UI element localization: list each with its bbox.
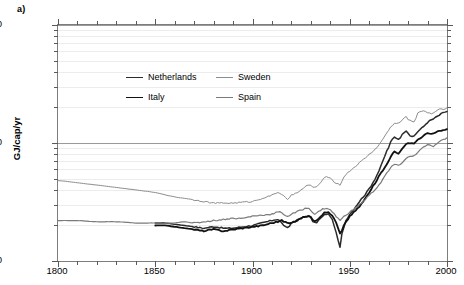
y-axis-tick [447, 72, 451, 73]
y-axis-tick-label: 10 [0, 254, 2, 265]
x-axis-tick [233, 261, 234, 265]
y-axis-tick-label: 1000 [0, 18, 2, 29]
series-line-sweden [58, 108, 447, 204]
y-axis-tick [447, 61, 451, 62]
x-axis-tick [408, 261, 409, 265]
x-axis-tick [330, 261, 331, 265]
x-axis-tick [136, 261, 137, 265]
y-axis-tick [447, 87, 451, 88]
legend-line-icon [216, 97, 233, 98]
y-axis-tick [447, 154, 451, 155]
x-axis-tick [428, 261, 429, 265]
x-axis-tick [77, 261, 78, 265]
y-axis-tick [447, 51, 451, 52]
legend-row: ItalySpain [126, 87, 306, 107]
series-line-spain [58, 138, 447, 223]
x-axis-tick-label: 1950 [327, 265, 371, 276]
legend-label: Spain [238, 92, 261, 102]
series-line-netherlands [155, 112, 447, 248]
chart-legend: NetherlandsSwedenItalySpain [126, 67, 306, 107]
y-axis-tick [447, 161, 451, 162]
y-axis-tick [447, 25, 453, 26]
y-axis-tick [447, 179, 451, 180]
y-axis-tick [447, 36, 451, 37]
legend-label: Sweden [238, 72, 271, 82]
x-axis-tick [272, 261, 273, 265]
x-axis-tick [214, 261, 215, 265]
legend-item-italy[interactable]: Italy [126, 92, 216, 102]
y-axis-label: GJ/cap/yr [11, 104, 22, 174]
x-axis-tick [58, 261, 59, 267]
chart-figure: a) GJ/cap/yr 101001000 18001850190019502… [0, 0, 464, 285]
y-axis-tick [447, 143, 453, 144]
x-axis-tick [291, 261, 292, 265]
x-axis-tick [116, 261, 117, 265]
x-axis-tick [155, 261, 156, 267]
y-axis-tick [447, 205, 451, 206]
data-series-lines [58, 25, 447, 261]
x-axis-tick-label: 1900 [230, 265, 274, 276]
legend-line-icon [216, 77, 233, 78]
y-axis-tick [447, 107, 451, 108]
x-axis-tick [369, 261, 370, 265]
x-axis-tick [447, 261, 448, 267]
y-axis-tick [447, 190, 451, 191]
x-axis-tick [175, 261, 176, 265]
legend-item-sweden[interactable]: Sweden [216, 72, 306, 82]
x-axis-tick [97, 261, 98, 265]
y-axis-tick [447, 148, 451, 149]
legend-label: Italy [148, 92, 165, 102]
legend-item-spain[interactable]: Spain [216, 92, 306, 102]
series-line-italy [155, 129, 447, 233]
x-axis-tick [447, 19, 448, 25]
y-axis-tick [447, 43, 451, 44]
legend-row: NetherlandsSweden [126, 67, 306, 87]
y-axis-tick-label: 100 [0, 136, 2, 147]
panel-label: a) [17, 4, 25, 14]
legend-label: Netherlands [148, 72, 197, 82]
y-axis-tick [447, 30, 451, 31]
y-axis-tick [447, 169, 451, 170]
x-axis-tick [311, 261, 312, 265]
y-axis-tick [447, 225, 451, 226]
x-axis-tick [253, 261, 254, 267]
legend-line-icon [126, 77, 143, 78]
x-axis-tick-label: 2000 [424, 265, 464, 276]
legend-line-icon [126, 97, 143, 98]
plot-area: NetherlandsSwedenItalySpain [57, 24, 448, 262]
legend-item-netherlands[interactable]: Netherlands [126, 72, 216, 82]
x-axis-tick-label: 1800 [35, 265, 79, 276]
x-axis-tick-label: 1850 [132, 265, 176, 276]
x-axis-tick [389, 261, 390, 265]
x-axis-tick [350, 261, 351, 267]
x-axis-tick [194, 261, 195, 265]
